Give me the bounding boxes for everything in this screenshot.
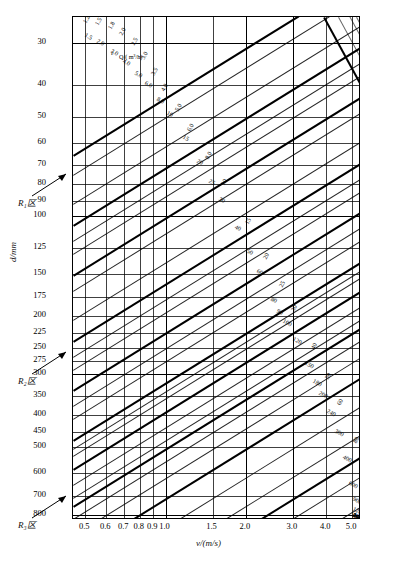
y-tick-60: 60 <box>38 137 47 146</box>
i-unit-note: i <box>111 49 113 56</box>
gridline-v-0.6 <box>106 17 107 518</box>
x-axis-title: v/(m/s) <box>196 538 221 548</box>
x-tick-3.0: 3.0 <box>287 521 298 531</box>
gridline-h-60 <box>73 143 359 144</box>
q-label-6.0: 6.0 <box>144 79 154 89</box>
i-label-2.5: 2.5 <box>129 36 139 46</box>
q-curve-15 <box>73 141 360 320</box>
q-label-300: 300 <box>334 427 345 438</box>
q-curve-4 <box>73 47 360 227</box>
gridline-h-600 <box>73 473 359 474</box>
i-label-4.0: 4.0 <box>159 82 169 92</box>
q-label-40: 40 <box>234 223 243 232</box>
y-tick-400: 400 <box>33 409 46 418</box>
q-label-15: 15 <box>182 133 191 142</box>
y-tick-40: 40 <box>38 79 47 88</box>
q-label-5.0: 5.0 <box>134 69 144 79</box>
y-tick-450: 450 <box>33 426 46 435</box>
y-tick-50: 50 <box>38 111 47 120</box>
y-tick-150: 150 <box>33 268 46 277</box>
q-curve-40 <box>73 212 360 392</box>
y-tick-275: 275 <box>33 355 46 364</box>
x-tick-0.5: 0.5 <box>79 521 90 531</box>
gridline-h-50 <box>73 117 359 118</box>
chart-root: d/mm v/(m/s) R₁区 R₂区 R₃区 1.21.51.82.02.5… <box>0 0 410 573</box>
gridline-v-0.9 <box>153 17 154 518</box>
i-label-6.0: 6.0 <box>185 122 195 132</box>
y-tick-250: 250 <box>33 342 46 351</box>
q-label-2.0: 2.0 <box>96 37 106 47</box>
i-label-1.5: 1.5 <box>93 16 103 26</box>
i-curve-2 <box>357 17 360 24</box>
i-label-1.2: 1.2 <box>81 16 91 24</box>
i-label-40: 40 <box>309 342 318 351</box>
i-label-1.8: 1.8 <box>106 20 116 30</box>
gridline-h-100 <box>73 216 359 217</box>
i-label-20: 20 <box>261 252 270 261</box>
i-label-60: 60 <box>335 398 344 407</box>
gridline-v-4 <box>326 17 327 518</box>
y-tick-800: 800 <box>33 509 46 518</box>
gridline-v-2 <box>246 17 247 518</box>
x-tick-1.5: 1.5 <box>206 521 217 531</box>
x-tick-0.7: 0.7 <box>118 521 129 531</box>
x-tick-4.0: 4.0 <box>320 521 331 531</box>
i-label-2.0: 2.0 <box>117 26 127 36</box>
y-tick-80: 80 <box>38 178 47 187</box>
y-tick-175: 175 <box>33 291 46 300</box>
i-label-15: 15 <box>243 217 252 226</box>
y-tick-350: 350 <box>33 390 46 399</box>
q-label-30: 30 <box>218 195 227 204</box>
gridline-v-1.5 <box>213 17 214 518</box>
y-tick-100: 100 <box>33 210 46 219</box>
y-tick-225: 225 <box>33 327 46 336</box>
y-tick-600: 600 <box>33 467 46 476</box>
x-tick-1.0: 1.0 <box>159 521 170 531</box>
y-tick-700: 700 <box>33 490 46 499</box>
gridline-v-0.7 <box>124 17 125 518</box>
y-axis-title: d/mm <box>8 242 18 262</box>
x-tick-0.9: 0.9 <box>147 521 158 531</box>
x-tick-0.8: 0.8 <box>133 521 144 531</box>
q-unit-note: Q/( m³/h) <box>119 53 142 60</box>
gridline-v-1 <box>166 17 167 518</box>
y-tick-90: 90 <box>38 195 47 204</box>
q-label-80: 80 <box>270 295 279 304</box>
q-curve-200 <box>73 327 360 507</box>
i-label-3.5: 3.5 <box>149 66 159 76</box>
gridline-h-300 <box>73 374 359 375</box>
plot-area: 1.21.51.82.02.53.03.54.05.06.08.01015202… <box>72 16 360 519</box>
q-curve-10 <box>73 112 360 291</box>
q-curve-5 <box>73 63 360 242</box>
q-curve-600 <box>176 406 360 519</box>
x-tick-5.0: 5.0 <box>346 521 357 531</box>
y-tick-200: 200 <box>33 310 46 319</box>
x-tick-2.0: 2.0 <box>240 521 251 531</box>
zone-arrow-1 <box>30 172 70 198</box>
y-tick-30: 30 <box>38 37 47 46</box>
y-tick-125: 125 <box>33 242 46 251</box>
q-label-9000: 9000 <box>352 511 360 519</box>
q-label-600: 600 <box>348 479 359 490</box>
x-tick-0.6: 0.6 <box>100 521 111 531</box>
y-tick-70: 70 <box>38 159 47 168</box>
y-tick-500: 500 <box>33 441 46 450</box>
gridline-h-150 <box>73 274 359 275</box>
gridline-h-800 <box>73 515 359 516</box>
gridline-h-30 <box>73 43 359 44</box>
y-tick-300: 300 <box>33 368 46 377</box>
